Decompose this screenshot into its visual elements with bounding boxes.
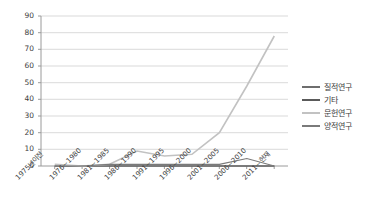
- y-tick-70: 70: [12, 45, 34, 53]
- y-tick-20: 20: [12, 129, 34, 137]
- legend-swatch-icon: [302, 86, 320, 88]
- gridlines: [41, 16, 288, 149]
- legend-item-quantitative[interactable]: 양적연구: [302, 119, 386, 132]
- legend-item-literature[interactable]: 문헌연구: [302, 106, 386, 119]
- line-chart: 90 80 70 60 50 40 30 20 10 0 1975년이전 197…: [0, 0, 386, 223]
- y-tick-90: 90: [12, 12, 34, 20]
- legend-swatch-icon: [302, 112, 320, 114]
- chart-legend: 질적연구 기타 문헌연구 양적연구: [302, 80, 386, 132]
- legend-label: 기타: [324, 94, 338, 105]
- legend-label: 양적연구: [324, 120, 352, 131]
- legend-item-qualitative[interactable]: 질적연구: [302, 80, 386, 93]
- legend-label: 질적연구: [324, 81, 352, 92]
- y-tick-10: 10: [12, 145, 34, 153]
- y-tick-50: 50: [12, 79, 34, 87]
- y-tick-60: 60: [12, 62, 34, 70]
- axis-lines: [41, 16, 288, 166]
- legend-swatch-icon: [302, 99, 320, 101]
- legend-label: 문헌연구: [324, 107, 352, 118]
- legend-swatch-icon: [302, 125, 320, 127]
- legend-item-other[interactable]: 기타: [302, 93, 386, 106]
- y-tick-40: 40: [12, 95, 34, 103]
- y-tick-30: 30: [12, 112, 34, 120]
- y-tick-80: 80: [12, 29, 34, 37]
